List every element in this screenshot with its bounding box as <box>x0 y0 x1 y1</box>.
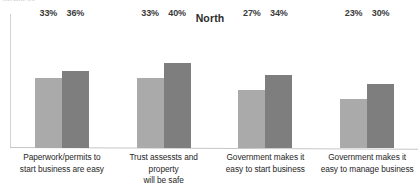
category-label: Government makes iteasy to manage busine… <box>316 152 418 187</box>
bar-value-label: 33% <box>40 8 58 18</box>
bar[interactable]: 34% <box>265 75 292 148</box>
bar[interactable]: 27% <box>238 90 265 148</box>
bar-value-label: 34% <box>270 8 288 18</box>
bar-value-label: 33% <box>141 8 159 18</box>
bar[interactable]: 33% <box>137 78 164 148</box>
bar-group: 33%36% <box>11 20 113 148</box>
clipped-header-text: business <box>3 0 35 1</box>
bar-value-label: 27% <box>243 8 261 18</box>
category-label: Paperwork/permits tostart business are e… <box>11 152 113 187</box>
bar[interactable]: 23% <box>340 99 367 148</box>
bar-slot: 23% <box>340 20 367 148</box>
bar-slot: 30% <box>367 20 394 148</box>
bar-value-label: 23% <box>345 8 363 18</box>
bar-slot: 33% <box>137 20 164 148</box>
bar-slot: 36% <box>62 20 89 148</box>
bar[interactable]: 36% <box>62 71 89 148</box>
bar-group: 27%34% <box>215 20 317 148</box>
bar-value-label: 30% <box>372 8 390 18</box>
bar[interactable]: 40% <box>164 63 191 148</box>
category-label: Trust assessts and propertywill be safe <box>113 152 215 187</box>
category-axis-labels: Paperwork/permits tostart business are e… <box>11 152 418 187</box>
plot-area: 33%36%33%40%27%34%23%30% <box>11 20 418 148</box>
chart-container: business North 33%36%33%40%27%34%23%30% … <box>0 0 420 189</box>
bar-slot: 34% <box>265 20 292 148</box>
bar-group: 33%40% <box>113 20 215 148</box>
bar-slot: 27% <box>238 20 265 148</box>
bar[interactable]: 33% <box>35 78 62 148</box>
bar-value-label: 36% <box>67 8 85 18</box>
bar-slot: 40% <box>164 20 191 148</box>
bar-group: 23%30% <box>316 20 418 148</box>
bar-slot: 33% <box>35 20 62 148</box>
bar[interactable]: 30% <box>367 84 394 148</box>
category-label: Government makes iteasy to start busines… <box>215 152 317 187</box>
bar-value-label: 40% <box>168 8 186 18</box>
